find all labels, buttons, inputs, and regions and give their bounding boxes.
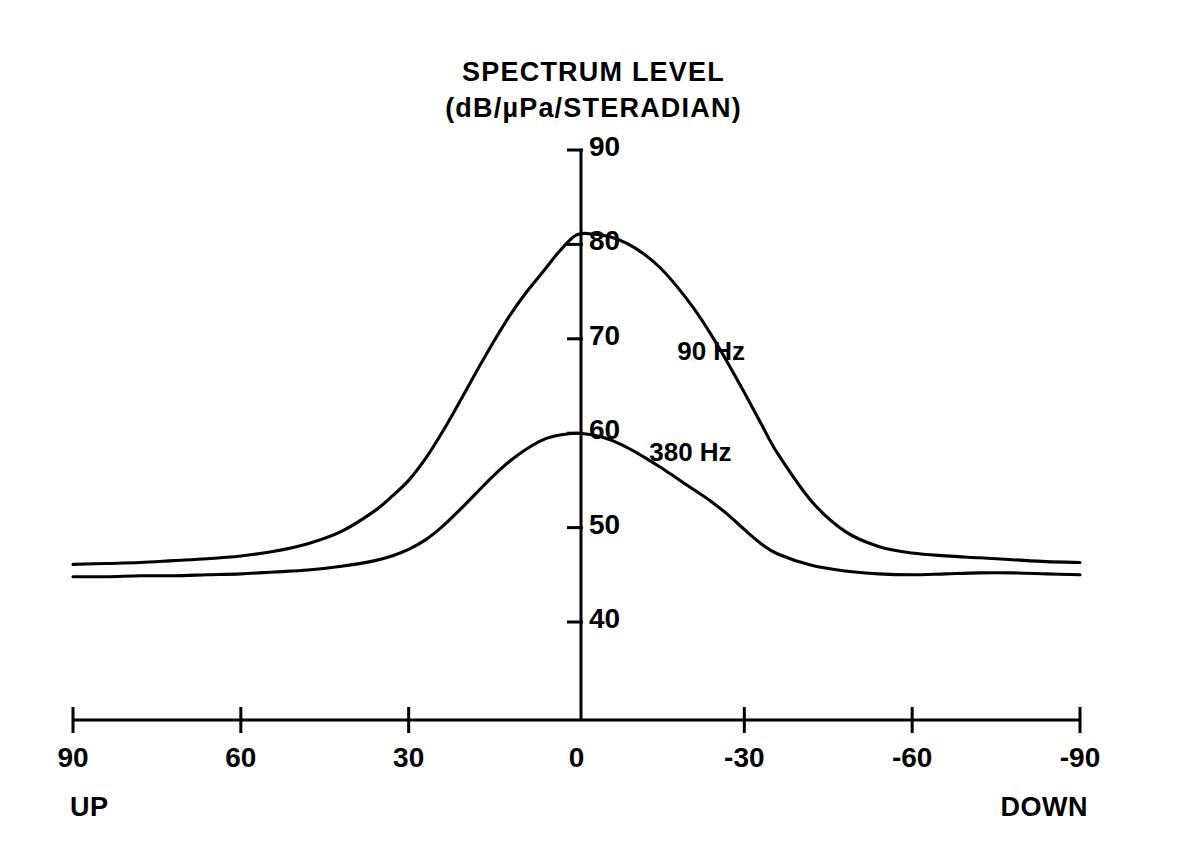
y-tick-label: 80	[589, 225, 620, 257]
x-tick-label: 30	[393, 742, 424, 774]
x-tick-label: 90	[57, 742, 88, 774]
x-tick-label: 60	[225, 742, 256, 774]
y-tick-label: 50	[589, 509, 620, 541]
series-label-380-hz: 380 Hz	[649, 437, 731, 468]
chart-title-line-1: SPECTRUM LEVEL	[0, 57, 1187, 88]
axes-group	[73, 150, 1080, 733]
x-axis-end-label-down: DOWN	[1001, 792, 1088, 823]
series-group	[73, 233, 1080, 576]
x-tick-label: -60	[892, 742, 932, 774]
y-tick-label: 70	[589, 320, 620, 352]
y-tick-label: 90	[589, 131, 620, 163]
series-line-90-hz	[73, 233, 1080, 564]
x-tick-label: -30	[724, 742, 764, 774]
x-tick-label: 0	[569, 742, 585, 774]
chart-title-line-2: (dB/µPa/STERADIAN)	[0, 93, 1187, 124]
spectrum-level-chart: SPECTRUM LEVEL (dB/µPa/STERADIAN) 906030…	[0, 0, 1187, 849]
y-tick-label: 40	[589, 603, 620, 635]
y-tick-label: 60	[589, 414, 620, 446]
series-label-90-hz: 90 Hz	[677, 336, 745, 367]
x-tick-label: -90	[1060, 742, 1100, 774]
x-axis-end-label-up: UP	[70, 792, 109, 823]
